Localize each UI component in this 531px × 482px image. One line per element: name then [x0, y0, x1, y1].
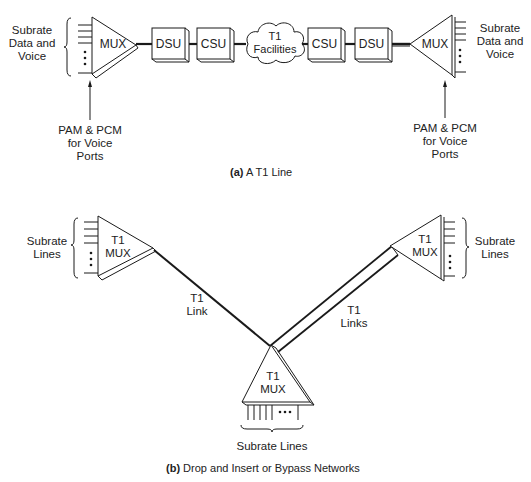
left-subrate-label: Subrate Data and Voice	[4, 24, 60, 63]
b-bottom-mux-line2: MUX	[258, 383, 288, 396]
left-subrate-line2: Data and	[4, 37, 60, 50]
b-left-subrate-line2: Lines	[22, 248, 72, 261]
caption-b-text: Drop and Insert or Bypass Networks	[183, 462, 360, 474]
cloud-line2: Facilities	[248, 43, 302, 56]
b-bottom-mux-label: T1 MUX	[258, 370, 288, 396]
t1-links-right-a	[270, 246, 392, 346]
csu-label-2: CSU	[308, 37, 341, 51]
right-subrate-label: Subrate Data and Voice	[472, 22, 528, 61]
b-left-mux-line2: MUX	[101, 247, 135, 260]
dsu-label-1: DSU	[152, 37, 185, 51]
caption-a-text: A T1 Line	[246, 166, 292, 178]
t1-link-label: T1 Link	[182, 292, 212, 318]
left-subrate-line1: Subrate	[4, 24, 60, 37]
b-bottom-dots-icon	[279, 411, 292, 414]
diagram-canvas	[0, 0, 531, 482]
right-voice-line1: PAM & PCM	[405, 122, 485, 135]
link-right-line2: Links	[337, 317, 371, 330]
b-right-mux-line1: T1	[410, 233, 440, 246]
left-subrate-ticks	[78, 25, 92, 73]
left-voice-line2: for Voice	[50, 137, 130, 150]
t1-links-label: T1 Links	[337, 304, 371, 330]
right-voice-label: PAM & PCM for Voice Ports	[405, 122, 485, 161]
caption-a: (a) A T1 Line	[230, 166, 292, 178]
t1-link-left	[154, 250, 270, 346]
b-right-subrate-line1: Subrate	[470, 235, 520, 248]
b-left-mux-label: T1 MUX	[101, 234, 135, 260]
caption-b: (b) Drop and Insert or Bypass Networks	[166, 462, 360, 474]
left-dots-icon	[84, 51, 87, 66]
b-left-mux-line1: T1	[101, 234, 135, 247]
b-left-subrate-label: Subrate Lines	[22, 235, 72, 261]
b-right-dots-icon	[449, 255, 452, 270]
csu-label-1: CSU	[197, 37, 230, 51]
b-right-subrate-line2: Lines	[470, 248, 520, 261]
caption-b-prefix: (b)	[166, 462, 180, 474]
link-left-line1: T1	[182, 292, 212, 305]
right-dots-icon	[459, 49, 462, 64]
b-bottom-brace	[241, 425, 303, 432]
right-subrate-line1: Subrate	[472, 22, 528, 35]
b-left-dots-icon	[90, 252, 93, 267]
right-subrate-ticks	[455, 22, 466, 72]
b-right-subrate-label: Subrate Lines	[470, 235, 520, 261]
dsu-label-2: DSU	[355, 37, 388, 51]
cloud-line1: T1	[248, 30, 302, 43]
left-subrate-brace	[64, 18, 71, 76]
right-voice-line3: Ports	[405, 148, 485, 161]
b-bottom-mux-line1: T1	[258, 370, 288, 383]
b-right-mux-line2: MUX	[410, 246, 440, 259]
right-subrate-line2: Data and	[472, 35, 528, 48]
left-voice-label: PAM & PCM for Voice Ports	[50, 124, 130, 163]
link-left-line2: Link	[182, 305, 212, 318]
right-voice-line2: for Voice	[405, 135, 485, 148]
left-voice-line1: PAM & PCM	[50, 124, 130, 137]
b-right-brace	[462, 218, 469, 278]
left-subrate-line3: Voice	[4, 50, 60, 63]
left-mux-label: MUX	[95, 37, 131, 51]
link-right-line1: T1	[337, 304, 371, 317]
b-right-mux-label: T1 MUX	[410, 233, 440, 259]
right-subrate-line3: Voice	[472, 48, 528, 61]
b-bottom-subrate-label: Subrate Lines	[228, 440, 316, 453]
caption-a-prefix: (a)	[230, 166, 243, 178]
b-left-brace	[71, 218, 78, 278]
right-mux-label: MUX	[418, 37, 452, 51]
left-voice-line3: Ports	[50, 150, 130, 163]
b-left-subrate-line1: Subrate	[22, 235, 72, 248]
t1-facilities-label: T1 Facilities	[248, 30, 302, 56]
